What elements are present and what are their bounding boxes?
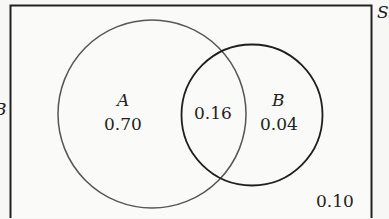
intersection-value: 0.16 bbox=[194, 105, 232, 122]
left-fragment-label: B bbox=[0, 101, 7, 118]
universe-rectangle bbox=[11, 6, 372, 219]
set-a-only-value: 0.70 bbox=[104, 116, 142, 133]
outside-value: 0.10 bbox=[316, 193, 354, 210]
set-b-label: B bbox=[272, 92, 285, 109]
set-b-only-value: 0.04 bbox=[260, 116, 298, 133]
set-a-label: A bbox=[117, 92, 129, 109]
universe-label: S bbox=[377, 4, 389, 21]
